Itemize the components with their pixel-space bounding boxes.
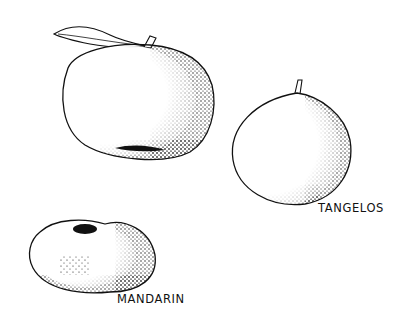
mandarin-label: MANDARIN [117, 292, 185, 306]
tangelos-label: TANGELOS [318, 201, 384, 215]
mandarin [29, 215, 165, 300]
tangelo [230, 80, 360, 210]
fruit-illustration [0, 0, 419, 332]
orange-with-leaf [54, 27, 230, 170]
